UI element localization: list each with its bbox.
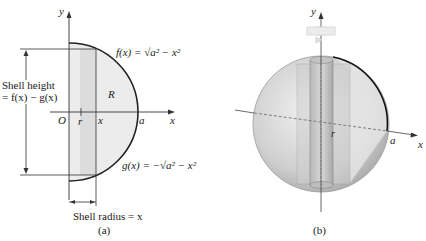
arrow-left-icon (70, 200, 75, 204)
y-axis-label: y (58, 5, 64, 17)
shell-radius-label: Shell radius = x (73, 210, 143, 222)
region-label: R (107, 88, 115, 100)
inner-cylinder (310, 60, 333, 185)
a-label: a (139, 114, 145, 126)
shell-height-formula: = f(x) − g(x) (2, 91, 58, 104)
figure-a: y x O r x a R f(x) = √a² − x² g(x) = −√a… (2, 5, 197, 237)
cylinder-top (310, 57, 333, 64)
x-axis-label: x (169, 114, 175, 126)
x-axis-b-left (235, 110, 254, 113)
origin-label: O (58, 114, 66, 126)
r-label: r (78, 115, 83, 127)
shell-height-label: Shell height (2, 79, 55, 91)
caption-b: (b) (313, 224, 326, 237)
f-function-label: f(x) = √a² − x² (116, 46, 181, 59)
cylinder-bottom (310, 182, 333, 189)
r-label-b: r (331, 128, 335, 139)
figure-b: y x r a (b) (235, 5, 423, 237)
arrow-down-icon (24, 168, 29, 174)
arrow-up-icon (24, 50, 29, 56)
caption-a: (a) (98, 224, 111, 237)
a-label-b: a (390, 134, 396, 146)
x-arrow-icon-b (411, 133, 419, 138)
y-arrow-icon (67, 11, 72, 18)
x-tick-label: x (97, 114, 103, 126)
y-arrow-icon-b (319, 12, 324, 19)
g-function-label: g(x) = −√a² − x² (122, 159, 197, 172)
figure-canvas: y x O r x a R f(x) = √a² − x² g(x) = −√a… (0, 0, 426, 241)
x-axis-label-b: x (417, 138, 423, 150)
arrow-right-icon (90, 200, 95, 204)
y-axis-label-b: y (310, 5, 316, 17)
rotation-arrow-icon (307, 27, 335, 43)
